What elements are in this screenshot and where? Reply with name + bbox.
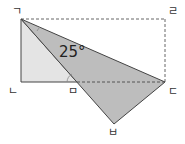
- label-top-left: ㄱ: [12, 6, 22, 17]
- label-bottom: ㅂ: [108, 127, 118, 138]
- label-bottom-left: ㄴ: [8, 86, 18, 97]
- label-right: ㄷ: [168, 86, 178, 97]
- fold-diagram: [0, 0, 185, 144]
- angle-label: 25°: [59, 45, 86, 60]
- label-top-right: ㄹ: [168, 6, 178, 17]
- label-middle: ㅁ: [68, 86, 78, 97]
